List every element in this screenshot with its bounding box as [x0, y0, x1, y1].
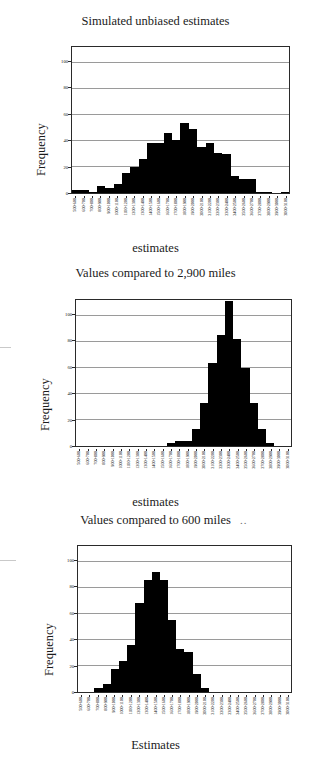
x-axis-tick: 2500-2600: [242, 695, 250, 735]
x-axis-tick: 1900-2000: [189, 196, 197, 236]
histogram-bar: [105, 188, 113, 193]
x-axis-tick: 1400-1500: [147, 196, 155, 236]
y-axis-tick-mark: [74, 639, 77, 640]
x-axis-tick: 1300-1400: [138, 196, 146, 236]
x-axis-tick: 1500-1600: [160, 695, 168, 735]
x-axis-label: Estimates: [0, 738, 311, 752]
x-axis-tick: 2200-2300: [217, 449, 225, 489]
x-axis-tick-label: 1800-1900: [185, 451, 190, 469]
chart-title: Values compared to 600 miles: [0, 513, 311, 527]
x-axis-tick: 1400-1500: [151, 695, 159, 735]
x-axis-tick: 600-700: [79, 196, 87, 236]
y-axis-tick-mark: [74, 586, 77, 587]
y-axis-tick-mark: [74, 666, 77, 667]
histogram-bar: [172, 140, 180, 193]
histogram-bar: [111, 669, 119, 692]
y-axis-tick-mark: [68, 114, 71, 115]
y-axis-tick-mark: [74, 613, 77, 614]
x-axis-tick: 2800-2900: [267, 695, 275, 735]
x-axis-tick-label: 1400-1500: [149, 198, 154, 216]
y-axis-label: Frequency: [38, 378, 53, 431]
x-axis-tick-label: 700-800: [94, 451, 99, 465]
x-axis-tick: 2100-2200: [209, 449, 217, 489]
x-axis-tick-label: 2700-2800: [258, 198, 263, 216]
x-axis-tick: 2600-2700: [251, 695, 259, 735]
chart-compared-600: Values compared to 600 miles..Frequency0…: [0, 490, 311, 762]
x-axis-tick-label: 1200-1300: [135, 451, 140, 469]
histogram-bar: [135, 603, 143, 692]
x-axis-tick-label: 2900-3000: [277, 697, 282, 715]
x-axis-tick-label: 1200-1300: [137, 697, 142, 715]
x-axis-tick: 3000-3100: [284, 449, 292, 489]
x-axis-tick-label: 1000-1100: [120, 697, 125, 715]
x-axis-tick: 3000-3100: [284, 695, 292, 735]
histogram-bar: [241, 368, 249, 446]
y-axis-label: Frequency: [42, 623, 57, 676]
histogram-bar: [222, 154, 230, 193]
y-axis-tick-mark: [72, 420, 75, 421]
x-axis-tick-label: 2700-2800: [260, 451, 265, 469]
x-axis-tick: 900-1000: [105, 196, 113, 236]
x-axis-tick: 1600-1700: [168, 695, 176, 735]
x-axis-tick: 1500-1600: [158, 449, 166, 489]
x-axis-tick-label: 700-800: [95, 697, 100, 711]
x-axis-tick-label: 1800-1900: [182, 198, 187, 216]
x-axis-tick: 900-1000: [108, 449, 116, 489]
y-axis-tick-mark: [68, 87, 71, 88]
x-axis-tick-label: 2300-2400: [228, 697, 233, 715]
x-axis-tick-label: 1300-1400: [144, 451, 149, 469]
histogram-bar: [200, 403, 208, 446]
chart-title: Simulated unbiased estimates: [0, 14, 311, 28]
x-axis-tick-label: 500-600: [77, 451, 82, 465]
x-axis-tick-label: 1100-1200: [123, 198, 128, 216]
x-axis-tick: 1300-1400: [143, 695, 151, 735]
histogram-bar: [97, 186, 105, 193]
x-axis-tick-label: 500-600: [79, 697, 84, 711]
x-axis-tick-label: 2200-2300: [216, 198, 221, 216]
x-axis-tick-label: 2200-2300: [219, 697, 224, 715]
x-axis-tick-label: 2000-2100: [199, 198, 204, 216]
histogram-bar: [139, 159, 147, 193]
x-axis-tick: 1100-1200: [122, 196, 130, 236]
x-axis-tick: 500-600: [71, 196, 79, 236]
x-axis-tick: 1700-1800: [176, 695, 184, 735]
histogram-bar: [114, 184, 122, 193]
y-axis-tick-mark: [68, 167, 71, 168]
x-axis-tick-label: 1800-1900: [186, 697, 191, 715]
histogram-bar: [208, 363, 216, 446]
x-axis-tick-label: 1300-1400: [140, 198, 145, 216]
histogram-bar: [147, 143, 155, 193]
x-axis-tick: 1100-1200: [125, 449, 133, 489]
x-axis-tick: 2500-2600: [242, 449, 250, 489]
y-axis-tick-mark: [68, 193, 71, 194]
x-axis-tick-label: 2500-2600: [244, 451, 249, 469]
x-axis-tick: 700-800: [88, 196, 96, 236]
x-axis-tick: 1000-1100: [113, 196, 121, 236]
histogram-bar: [94, 688, 102, 692]
x-axis-tick: 800-900: [100, 449, 108, 489]
x-axis-tick-label: 2500-2600: [244, 697, 249, 715]
x-axis-tick-label: 2900-3000: [277, 451, 282, 469]
x-axis-tick-label: 2600-2700: [252, 697, 257, 715]
histogram-bar: [231, 176, 239, 193]
histogram-bars: [78, 546, 291, 692]
x-axis-tick-label: 700-800: [90, 198, 95, 212]
x-axis-tick-label: 1200-1300: [132, 198, 137, 216]
x-axis-tick-label: 2100-2200: [210, 451, 215, 469]
histogram-bar: [176, 649, 184, 692]
x-axis-tick-label: 2800-2900: [267, 198, 272, 216]
x-axis-tick: 2000-2100: [200, 449, 208, 489]
histogram-bar: [144, 580, 152, 692]
x-axis-tick-label: 2900-3000: [275, 198, 280, 216]
x-axis-tick: 2700-2800: [259, 695, 267, 735]
histogram-bar: [201, 688, 209, 692]
chart-compared-2900: Values compared to 2,900 milesFrequency0…: [0, 255, 311, 510]
x-axis-tick-label: 1900-2000: [194, 451, 199, 469]
x-axis-tick: 700-800: [92, 449, 100, 489]
histogram-bar: [89, 192, 97, 193]
histogram-bar: [155, 143, 163, 193]
x-axis-tick-label: 1600-1700: [166, 198, 171, 216]
x-axis-tick: 2300-2400: [226, 695, 234, 735]
x-axis-tick-label: 2300-2400: [227, 451, 232, 469]
histogram-bar: [197, 147, 205, 193]
